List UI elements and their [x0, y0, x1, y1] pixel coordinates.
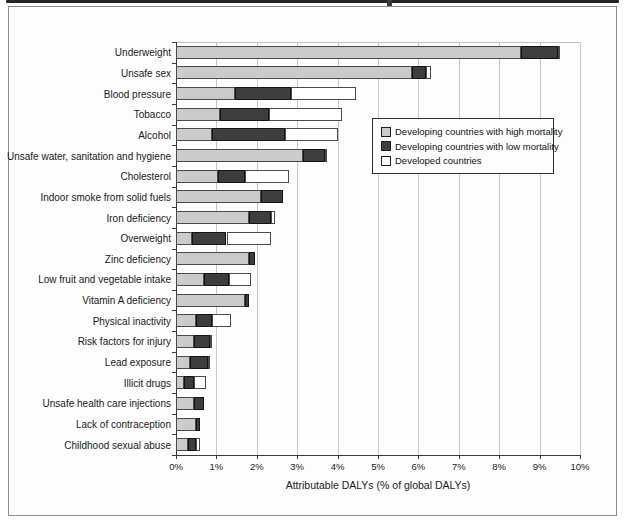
- bar-segment: [176, 108, 220, 121]
- y-axis-tick: [172, 166, 176, 167]
- legend-entry-high-mortality: Developing countries with high mortality: [381, 126, 547, 138]
- bar-segment: [194, 335, 210, 348]
- y-axis-tick: [172, 434, 176, 435]
- legend: Developing countries with high mortality…: [372, 118, 554, 174]
- bar-segment: [176, 128, 212, 141]
- bar-segment: [220, 108, 268, 121]
- bar-segment: [249, 211, 271, 224]
- category-label: Unsafe sex: [121, 67, 171, 78]
- bar-segment: [176, 376, 184, 389]
- category-label: Zinc deficiency: [105, 253, 171, 264]
- bar-segment: [303, 149, 325, 162]
- bar-segment: [176, 335, 194, 348]
- bar-segment: [176, 273, 204, 286]
- bar-segment: [227, 232, 271, 245]
- bar-segment: [229, 273, 251, 286]
- y-axis-tick: [172, 414, 176, 415]
- bar-segment: [269, 108, 342, 121]
- x-axis-line: [176, 455, 581, 456]
- bar-segment: [558, 46, 560, 59]
- y-axis-tick: [172, 104, 176, 105]
- x-tick-label: 8%: [479, 461, 519, 472]
- y-axis-tick: [172, 331, 176, 332]
- bar-segment: [196, 314, 212, 327]
- bar-segment: [218, 170, 244, 183]
- bar-segment: [291, 87, 356, 100]
- y-axis-tick: [172, 42, 176, 43]
- bar-segment: [188, 438, 196, 451]
- category-label: Unsafe water, sanitation and hygiene: [7, 150, 171, 161]
- category-label: Vitamin A deficiency: [82, 295, 171, 306]
- category-label: Childhood sexual abuse: [64, 439, 171, 450]
- bar-segment: [245, 170, 289, 183]
- y-axis-tick: [172, 207, 176, 208]
- bar-segment: [235, 87, 292, 100]
- bar-segment: [176, 66, 412, 79]
- y-axis-tick: [172, 455, 176, 456]
- bar-segment: [176, 211, 249, 224]
- bar-segment: [521, 46, 557, 59]
- category-label: Low fruit and vegetable intake: [38, 274, 171, 285]
- low-mortality-swatch-icon: [381, 141, 391, 151]
- bar-segment: [192, 232, 226, 245]
- x-tick-label: 4%: [318, 461, 358, 472]
- bar-segment: [210, 335, 212, 348]
- bar-segment: [176, 252, 249, 265]
- y-axis-tick: [172, 269, 176, 270]
- category-label: Lead exposure: [105, 357, 171, 368]
- x-tick-label: 5%: [358, 461, 398, 472]
- gridline: [499, 42, 500, 455]
- bar-segment: [176, 356, 190, 369]
- x-tick-label: 0%: [156, 461, 196, 472]
- x-tick-label: 9%: [520, 461, 560, 472]
- category-label: Underweight: [115, 47, 171, 58]
- y-axis-tick: [172, 372, 176, 373]
- bar-segment: [325, 149, 327, 162]
- developed-swatch-icon: [381, 156, 391, 166]
- gridline: [580, 42, 581, 455]
- scanned-chart-page: 0%1%2%3%4%5%6%7%8%9%10%UnderweightUnsafe…: [0, 0, 625, 523]
- category-label: Illicit drugs: [124, 377, 171, 388]
- gridline: [257, 42, 258, 455]
- bar-segment: [271, 211, 275, 224]
- bar-segment: [176, 149, 303, 162]
- category-label: Risk factors for injury: [78, 336, 171, 347]
- category-label: Physical inactivity: [93, 315, 171, 326]
- bar-segment: [212, 314, 230, 327]
- y-axis-tick: [172, 290, 176, 291]
- bar-segment: [176, 418, 196, 431]
- legend-label: Developing countries with high mortality: [395, 126, 562, 138]
- category-label: Indoor smoke from solid fuels: [40, 191, 171, 202]
- category-label: Lack of contraception: [76, 419, 171, 430]
- bar-segment: [176, 190, 261, 203]
- category-label: Tobacco: [134, 109, 171, 120]
- gridline: [338, 42, 339, 455]
- bar-segment: [176, 294, 245, 307]
- y-axis-tick: [172, 393, 176, 394]
- category-label: Unsafe health care injections: [43, 398, 171, 409]
- bar-segment: [194, 397, 204, 410]
- bar-segment: [194, 376, 206, 389]
- x-tick-label: 2%: [237, 461, 277, 472]
- gridline: [418, 42, 419, 455]
- gridline: [297, 42, 298, 455]
- bar-segment: [176, 397, 194, 410]
- y-axis-tick: [172, 63, 176, 64]
- y-axis-tick: [172, 352, 176, 353]
- gridline: [459, 42, 460, 455]
- bar-segment: [176, 314, 196, 327]
- scan-edge-artifact: [6, 0, 619, 3]
- gridline: [540, 42, 541, 455]
- x-tick-label: 3%: [277, 461, 317, 472]
- bar-segment: [190, 356, 208, 369]
- category-label: Cholesterol: [120, 171, 171, 182]
- category-label: Overweight: [120, 233, 171, 244]
- y-axis-tick: [172, 187, 176, 188]
- y-axis-line: [176, 42, 177, 456]
- legend-label: Developing countries with low mortality: [395, 141, 559, 153]
- bar-segment: [196, 418, 200, 431]
- bar-segment: [212, 128, 285, 141]
- high-mortality-swatch-icon: [381, 127, 391, 137]
- bar-segment: [208, 356, 210, 369]
- bar-segment: [245, 294, 249, 307]
